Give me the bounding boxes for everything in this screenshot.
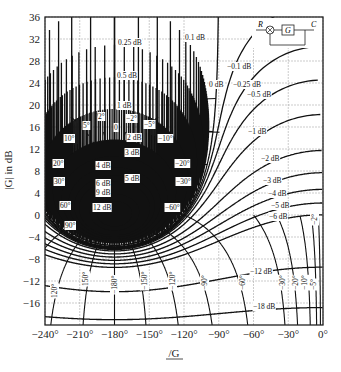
output-c-label: C	[311, 20, 317, 29]
contour-label: 1 dB	[117, 101, 131, 110]
contour-label: −30°	[278, 275, 287, 290]
input-r-label: R	[257, 20, 263, 29]
x-tick-label: −120°	[170, 328, 197, 340]
y-axis-label: |G| in dB	[2, 150, 14, 189]
contour-label: −2 dB	[261, 154, 280, 163]
contour-label: −10°	[300, 275, 309, 290]
contour-label: −60°	[165, 203, 180, 212]
contour-label: −5°	[144, 120, 155, 129]
contour-label: −12 dB	[250, 267, 272, 276]
contour-label: 12 dB	[93, 203, 111, 212]
contour-label: −1 dB	[248, 127, 267, 136]
y-tick-label: 28	[29, 55, 41, 67]
contour-label: 2 dB	[127, 133, 141, 142]
x-tick-label: −210°	[66, 328, 93, 340]
contour-label: −90°	[200, 275, 209, 290]
contour-label: −0.1 dB	[227, 62, 251, 71]
y-tick-label: 16	[29, 121, 41, 133]
contour-label: −5 dB	[271, 201, 290, 210]
contour-label: 5 dB	[125, 174, 139, 183]
contour-label: 10°	[64, 134, 75, 143]
y-tick-label: 32	[29, 33, 40, 45]
contour-label: −10°	[158, 134, 173, 143]
y-tick-label: 0	[35, 209, 41, 221]
y-tick-label: −12	[23, 275, 40, 287]
y-tick-label: 4	[35, 187, 41, 199]
contour-label: 2°	[98, 112, 105, 121]
contour-label: 0	[114, 123, 118, 132]
contour-label: −3 dB	[263, 176, 282, 185]
contour-label: −0.5 dB	[247, 90, 271, 99]
x-tick-label: −60°	[243, 328, 265, 340]
y-axis-ticks: −16−12−8−404812162024283236	[23, 11, 41, 309]
y-tick-label: −4	[28, 231, 40, 243]
x-tick-label: −180°	[101, 328, 128, 340]
x-axis-label: /G	[169, 347, 180, 359]
y-tick-label: 20	[29, 99, 41, 111]
g-block-label: G	[285, 26, 291, 35]
nichols-chart: 0.1 dB0.25 dB0.5 dB1 dB2 dB3 dB4 dB5 dB6…	[0, 0, 341, 372]
contour-label: −120°	[168, 272, 177, 290]
contour-label: 20°	[53, 159, 64, 168]
contour-label: −18 dB	[253, 302, 275, 311]
contour-label: 120°	[50, 284, 59, 298]
y-tick-label: 24	[29, 77, 41, 89]
x-tick-label: −150°	[136, 328, 163, 340]
y-tick-label: −16	[23, 297, 41, 309]
contour-label: −20°	[175, 159, 190, 168]
contour-label: 0.5 dB	[117, 71, 137, 80]
x-tick-label: 0°	[318, 328, 328, 340]
contour-label: −60°	[238, 275, 247, 290]
contour-label: 4 dB	[96, 161, 110, 170]
y-tick-label: 36	[29, 11, 41, 23]
x-tick-label: −30°	[277, 328, 299, 340]
x-axis-ticks: −240°−210°−180°−150°−120°−90°−60°−30°0°	[31, 328, 328, 340]
contour-label: −180°	[110, 276, 119, 294]
contour-label: −2°	[310, 214, 319, 225]
contour-label: −6 dB	[269, 212, 288, 221]
contour-label: 9 dB	[96, 188, 110, 197]
contour-label: 90°	[65, 221, 76, 230]
contour-label: 150°	[81, 272, 90, 286]
contour-label: 5°	[83, 121, 90, 130]
contour-label: −2°	[126, 114, 137, 123]
y-tick-label: 8	[35, 165, 41, 177]
feedback-block-diagram: R G C	[252, 18, 322, 48]
contour-label: −0.25 dB	[233, 80, 261, 89]
contour-label: 0 dB	[209, 80, 223, 89]
contour-label: 0.25 dB	[118, 38, 142, 47]
contour-label: −20°	[291, 275, 300, 290]
contour-label: −150°	[140, 272, 149, 290]
x-tick-label: −240°	[31, 328, 58, 340]
contour-label: −4 dB	[268, 189, 287, 198]
contour-label: −30°	[176, 177, 191, 186]
contour-label: 60°	[60, 201, 71, 210]
contour-label: 30°	[54, 177, 65, 186]
x-tick-label: −90°	[208, 328, 230, 340]
y-tick-label: 12	[29, 143, 40, 155]
contour-label: 0.1 dB	[185, 33, 205, 42]
y-tick-label: −8	[28, 253, 40, 265]
contour-label: −5°	[309, 279, 318, 290]
contour-label: 3 dB	[125, 148, 139, 157]
contour-label: 6 dB	[96, 179, 110, 188]
